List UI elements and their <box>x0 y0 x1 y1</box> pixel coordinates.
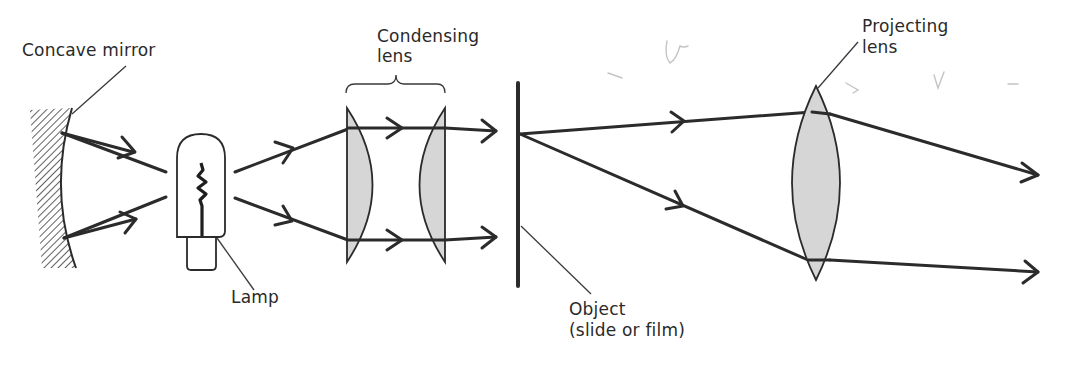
pencil-mark-2 <box>666 41 688 63</box>
object-leader-line <box>521 226 591 294</box>
ray-mirror-bottom-inner <box>64 219 136 238</box>
ray-lens-top-inner <box>812 112 830 114</box>
ray-object-bottom <box>520 134 808 260</box>
object-rays <box>520 112 812 260</box>
pencil-mark-1 <box>608 73 622 78</box>
ray-exit-top <box>830 114 1038 175</box>
ray-object-top <box>520 112 812 134</box>
pencil-mark-3 <box>846 83 858 93</box>
condensing-lens-label-line2: lens <box>377 46 413 66</box>
concave-mirror <box>30 108 76 268</box>
ray-mirror-top <box>62 133 166 172</box>
projector-diagram: Concave mirror Lamp Condensing lens <box>0 0 1071 368</box>
pencil-mark-4 <box>934 72 944 88</box>
lamp-leader-line <box>217 238 254 290</box>
condensing-lens-label-line1: Condensing <box>377 26 479 46</box>
concave-mirror-label: Concave mirror <box>22 40 156 60</box>
mirror-rays <box>62 133 166 238</box>
lamp <box>177 134 225 270</box>
concave-mirror-leader-line <box>72 66 126 114</box>
projecting-lens-leader-line <box>818 42 858 88</box>
ray-condenser-bottom-exit <box>445 237 496 240</box>
ray-exit-bottom <box>830 260 1038 272</box>
lamp-base <box>187 237 216 270</box>
condensing-lens-brace <box>346 75 445 93</box>
projecting-lens-label-line2: lens <box>862 37 898 57</box>
lamp-rays <box>235 129 348 240</box>
pencil-marks <box>608 41 1018 93</box>
projecting-lens-label-line1: Projecting <box>862 16 948 36</box>
ray-condenser-top-exit <box>445 128 496 131</box>
ray-mirror-bottom <box>64 197 166 238</box>
object-label-line1: Object <box>569 299 626 319</box>
exit-rays <box>808 112 1038 283</box>
lamp-label: Lamp <box>231 287 279 307</box>
object-label-line2: (slide or film) <box>569 320 685 340</box>
